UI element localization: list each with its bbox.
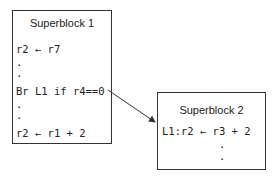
branch-edge: [0, 0, 273, 176]
branch-arrow: [108, 90, 155, 122]
